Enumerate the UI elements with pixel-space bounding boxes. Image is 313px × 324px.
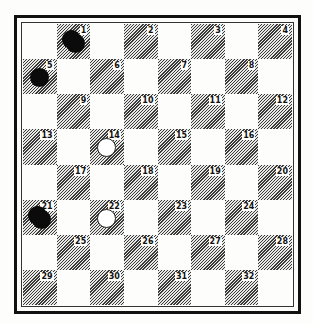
square-number: 10 (141, 96, 154, 105)
square-number: 28 (276, 237, 289, 246)
square-13[interactable]: 13 (23, 129, 57, 164)
square-number: 23 (175, 202, 188, 211)
light-square (90, 165, 124, 200)
light-square (57, 200, 91, 235)
black-man-icon[interactable] (30, 68, 49, 87)
white-man-icon[interactable] (97, 209, 116, 228)
light-square (191, 59, 225, 94)
square-7[interactable]: 7 (158, 59, 192, 94)
square-number: 31 (175, 272, 188, 281)
square-20[interactable]: 20 (258, 165, 292, 200)
black-king-icon[interactable] (62, 30, 81, 49)
square-2[interactable]: 2 (124, 24, 158, 59)
square-30[interactable]: 30 (90, 270, 124, 305)
light-square (158, 235, 192, 270)
square-11[interactable]: 11 (191, 94, 225, 129)
light-square (225, 235, 259, 270)
light-square (191, 200, 225, 235)
light-square (23, 235, 57, 270)
square-28[interactable]: 28 (258, 235, 292, 270)
checkerboard: 1234567891011121314151617181920212223242… (23, 24, 292, 305)
square-number: 29 (40, 272, 53, 281)
light-square (258, 270, 292, 305)
square-number: 17 (74, 167, 87, 176)
light-square (90, 235, 124, 270)
light-square (90, 94, 124, 129)
board-inner-border: 1234567891011121314151617181920212223242… (21, 22, 294, 307)
square-23[interactable]: 23 (158, 200, 192, 235)
square-16[interactable]: 16 (225, 129, 259, 164)
light-square (57, 129, 91, 164)
square-number: 25 (74, 237, 87, 246)
black-king-icon[interactable] (28, 206, 47, 225)
square-9[interactable]: 9 (57, 94, 91, 129)
square-10[interactable]: 10 (124, 94, 158, 129)
light-square (124, 200, 158, 235)
square-number: 20 (276, 167, 289, 176)
square-number: 24 (242, 202, 255, 211)
light-square (23, 94, 57, 129)
white-man-icon[interactable] (97, 138, 116, 157)
square-21[interactable]: 21 (23, 200, 57, 235)
square-14[interactable]: 14 (90, 129, 124, 164)
square-5[interactable]: 5 (23, 59, 57, 94)
light-square (225, 94, 259, 129)
light-square (57, 270, 91, 305)
square-number: 30 (108, 272, 121, 281)
square-1[interactable]: 1 (57, 24, 91, 59)
square-22[interactable]: 22 (90, 200, 124, 235)
square-number: 6 (113, 61, 121, 70)
square-number: 8 (248, 61, 256, 70)
square-number: 2 (147, 26, 155, 35)
light-square (158, 24, 192, 59)
light-square (225, 165, 259, 200)
square-18[interactable]: 18 (124, 165, 158, 200)
square-number: 1 (80, 26, 88, 35)
square-number: 9 (80, 96, 88, 105)
square-number: 32 (242, 272, 255, 281)
square-number: 11 (209, 96, 222, 105)
square-15[interactable]: 15 (158, 129, 192, 164)
square-number: 16 (242, 131, 255, 140)
light-square (124, 129, 158, 164)
square-number: 12 (276, 96, 289, 105)
square-number: 15 (175, 131, 188, 140)
board-outer-border: 1234567891011121314151617181920212223242… (14, 15, 301, 314)
square-number: 26 (141, 237, 154, 246)
square-25[interactable]: 25 (57, 235, 91, 270)
square-27[interactable]: 27 (191, 235, 225, 270)
square-number: 4 (281, 26, 289, 35)
light-square (191, 129, 225, 164)
square-3[interactable]: 3 (191, 24, 225, 59)
square-8[interactable]: 8 (225, 59, 259, 94)
square-31[interactable]: 31 (158, 270, 192, 305)
light-square (191, 270, 225, 305)
square-number: 19 (209, 167, 222, 176)
square-17[interactable]: 17 (57, 165, 91, 200)
light-square (57, 59, 91, 94)
light-square (158, 94, 192, 129)
square-32[interactable]: 32 (225, 270, 259, 305)
square-number: 5 (46, 61, 54, 70)
light-square (90, 24, 124, 59)
square-number: 3 (214, 26, 222, 35)
square-number: 18 (141, 167, 154, 176)
square-29[interactable]: 29 (23, 270, 57, 305)
square-4[interactable]: 4 (258, 24, 292, 59)
square-6[interactable]: 6 (90, 59, 124, 94)
light-square (23, 165, 57, 200)
light-square (124, 270, 158, 305)
light-square (124, 59, 158, 94)
light-square (258, 129, 292, 164)
square-26[interactable]: 26 (124, 235, 158, 270)
light-square (258, 200, 292, 235)
square-number: 13 (40, 131, 53, 140)
light-square (23, 24, 57, 59)
light-square (158, 165, 192, 200)
square-12[interactable]: 12 (258, 94, 292, 129)
light-square (258, 59, 292, 94)
square-19[interactable]: 19 (191, 165, 225, 200)
light-square (225, 24, 259, 59)
square-24[interactable]: 24 (225, 200, 259, 235)
square-number: 27 (209, 237, 222, 246)
